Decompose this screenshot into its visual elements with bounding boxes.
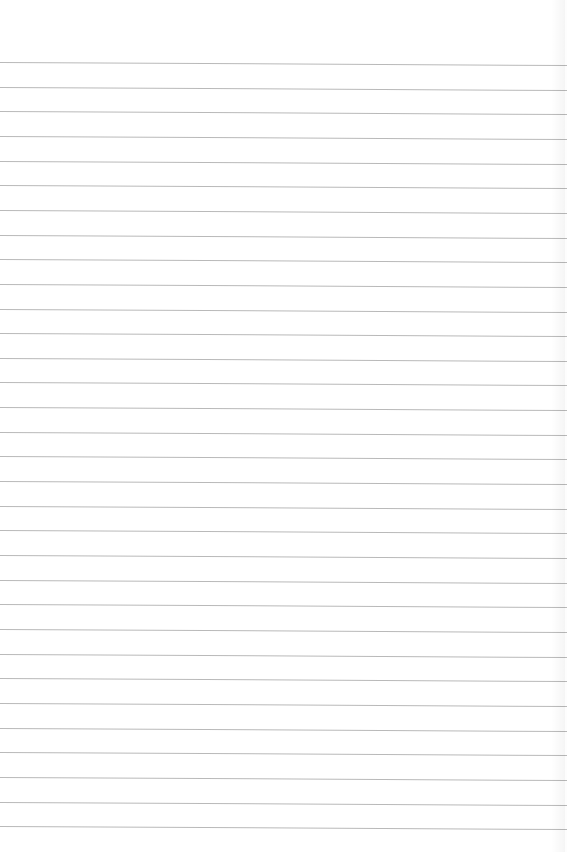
ruled-line bbox=[0, 826, 567, 830]
ruled-line bbox=[0, 530, 567, 534]
ruled-line bbox=[0, 382, 567, 386]
ruled-line bbox=[0, 309, 567, 313]
ruled-line bbox=[0, 580, 567, 584]
paper-edge-shadow bbox=[551, 0, 565, 852]
ruled-line bbox=[0, 506, 567, 510]
ruled-line bbox=[0, 111, 567, 115]
ruled-line bbox=[0, 802, 567, 806]
ruled-line bbox=[0, 136, 567, 140]
ruled-line bbox=[0, 555, 567, 559]
ruled-line bbox=[0, 629, 567, 633]
ruled-line bbox=[0, 333, 567, 337]
ruled-line bbox=[0, 432, 567, 436]
ruled-line bbox=[0, 407, 567, 411]
ruled-line bbox=[0, 62, 567, 66]
ruled-line bbox=[0, 161, 567, 165]
ruled-line bbox=[0, 259, 567, 263]
ruled-line bbox=[0, 456, 567, 460]
ruled-line bbox=[0, 358, 567, 362]
ruled-line bbox=[0, 481, 567, 485]
ruled-line bbox=[0, 604, 567, 608]
ruled-line bbox=[0, 185, 567, 189]
ruled-line bbox=[0, 87, 567, 91]
ruled-line bbox=[0, 777, 567, 781]
ruled-line bbox=[0, 678, 567, 682]
ruled-line bbox=[0, 235, 567, 239]
ruled-line bbox=[0, 728, 567, 732]
ruled-line bbox=[0, 210, 567, 214]
ruled-line bbox=[0, 654, 567, 658]
ruled-line bbox=[0, 703, 567, 707]
ruled-line bbox=[0, 284, 567, 288]
ruled-line bbox=[0, 752, 567, 756]
